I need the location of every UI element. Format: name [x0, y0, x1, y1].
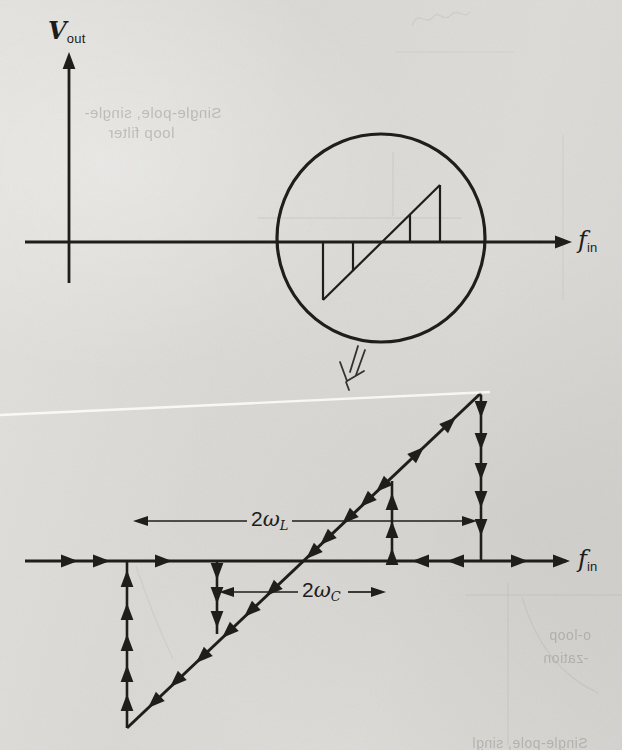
ghost-text-bottom-right-2: -zation [543, 650, 589, 666]
vout-subscript: out [67, 31, 86, 46]
vout-axis-label: Vout [48, 16, 86, 46]
ghost-text-top-left-1: Single-pole, single- [84, 104, 222, 121]
scanned-textbook-figure: Vout fin fin 2ωL 2ωC Single-pole, single… [0, 0, 622, 750]
capture-range-label: 2ωC [302, 578, 341, 604]
ghost-text-top-left-2: loop filter [108, 124, 174, 141]
vout-symbol: V [48, 16, 67, 45]
lower-fin-axis-label: fin [578, 545, 598, 574]
ghost-text-bottom-edge: Single-pole, singl [472, 735, 588, 750]
lock-range-label: 2ωL [251, 507, 288, 533]
upper-fin-axis-label: fin [578, 226, 598, 255]
ghost-text-bottom-right-1: o-loop [549, 627, 591, 643]
